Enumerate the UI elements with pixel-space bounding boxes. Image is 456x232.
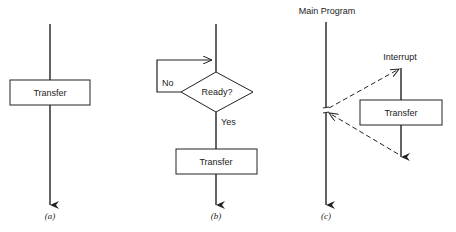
transfer-label: Transfer	[33, 88, 66, 98]
main-program-label: Main Program	[299, 6, 356, 16]
caption-a: (a)	[45, 211, 56, 221]
diagram-c: Main Program Interrupt Transfer (c)	[299, 6, 442, 221]
caption-b: (b)	[211, 211, 222, 221]
io-transfer-diagrams: Transfer (a) Ready? No Yes Transfer (b) …	[0, 0, 456, 232]
no-label: No	[162, 78, 174, 88]
transfer-label: Transfer	[199, 157, 232, 167]
interrupt-label: Interrupt	[383, 52, 417, 62]
decision-label: Ready?	[201, 87, 232, 97]
diagram-b: Ready? No Yes Transfer (b)	[157, 24, 257, 221]
yes-label: Yes	[221, 117, 236, 127]
caption-c: (c)	[321, 211, 331, 221]
diagram-a: Transfer (a)	[10, 24, 90, 221]
transfer-label: Transfer	[384, 108, 417, 118]
break-mark	[323, 112, 329, 113]
break-mark	[323, 107, 329, 108]
